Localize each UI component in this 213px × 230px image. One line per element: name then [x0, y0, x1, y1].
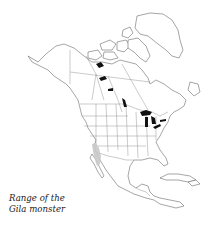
map-caption: Range of the Gila monster — [9, 193, 65, 215]
arctic-island — [100, 40, 116, 50]
baffin-island — [128, 38, 150, 62]
caption-line-2: Gila monster — [9, 204, 65, 215]
range-map: Range of the Gila monster — [0, 0, 213, 230]
newfoundland — [188, 82, 200, 96]
victoria-island — [88, 50, 102, 60]
lake-michigan — [145, 117, 148, 127]
caption-line-1: Range of the — [9, 193, 65, 204]
arctic-island — [103, 52, 118, 60]
cuba — [160, 174, 196, 182]
arctic-island — [122, 27, 133, 38]
